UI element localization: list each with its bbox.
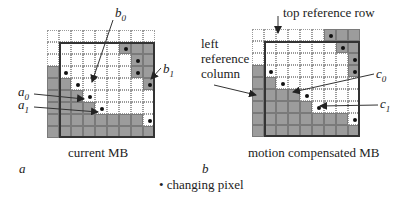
pixel — [288, 65, 300, 77]
pixel — [324, 53, 336, 65]
pixel — [288, 41, 300, 53]
shaded-pixel — [252, 101, 264, 113]
changing-pixel-dot-icon — [269, 70, 273, 74]
shaded-pixel — [336, 113, 348, 125]
pixel — [264, 29, 276, 41]
shaded-pixel — [300, 113, 312, 125]
shaded-pixel — [336, 29, 348, 41]
pixel — [312, 101, 324, 113]
label-left-ref-line3: column — [201, 66, 240, 82]
pixel — [324, 101, 336, 113]
dot-legend-icon: • — [159, 177, 164, 192]
pixel — [264, 41, 276, 53]
changing-pixel-dot-icon — [317, 106, 321, 110]
label-top-reference-row: top reference row — [283, 5, 375, 21]
pixel — [348, 89, 360, 101]
pixel — [336, 65, 348, 77]
shaded-pixel — [276, 125, 288, 137]
pixel — [336, 101, 348, 113]
shaded-pixel — [252, 77, 264, 89]
shaded-pixel — [264, 77, 276, 89]
shaded-pixel — [324, 125, 336, 137]
changing-pixel-dot-icon — [305, 94, 309, 98]
pixel — [264, 65, 276, 77]
shaded-pixel — [288, 89, 300, 101]
shaded-pixel — [264, 101, 276, 113]
shaded-pixel — [264, 125, 276, 137]
motion-compensated-grid — [252, 29, 360, 137]
pixel — [276, 53, 288, 65]
changing-pixel-dot-icon — [353, 70, 357, 74]
label-c0: c0 — [376, 66, 386, 84]
pixel — [300, 65, 312, 77]
pixel — [348, 113, 360, 125]
panel-letter-b: b — [202, 161, 209, 177]
changing-pixel-dot-icon — [329, 34, 333, 38]
shaded-pixel — [348, 65, 360, 77]
changing-pixel-dot-icon — [341, 46, 345, 50]
pixel — [300, 29, 312, 41]
shaded-pixel — [300, 125, 312, 137]
caption-motion-compensated-mb: motion compensated MB — [248, 145, 379, 161]
pixel — [336, 89, 348, 101]
label-c1: c1 — [380, 96, 390, 114]
shaded-pixel — [312, 125, 324, 137]
pixel — [348, 101, 360, 113]
shaded-pixel — [264, 113, 276, 125]
changing-pixel-dot-icon — [281, 82, 285, 86]
pixel — [252, 29, 264, 41]
pixel — [348, 77, 360, 89]
pixel — [336, 53, 348, 65]
shaded-pixel — [276, 89, 288, 101]
pixel — [312, 41, 324, 53]
legend: • changing pixel — [159, 177, 244, 193]
shaded-pixel — [348, 53, 360, 65]
shaded-pixel — [348, 29, 360, 41]
label-left-ref-line2: reference — [201, 51, 249, 67]
shaded-pixel — [312, 113, 324, 125]
shaded-pixel — [252, 125, 264, 137]
pixel — [252, 41, 264, 53]
pixel — [312, 53, 324, 65]
shaded-pixel — [276, 113, 288, 125]
shaded-pixel — [348, 125, 360, 137]
pixel — [324, 41, 336, 53]
pixel — [300, 53, 312, 65]
shaded-pixel — [252, 65, 264, 77]
shaded-pixel — [324, 29, 336, 41]
pixel — [300, 77, 312, 89]
pixel — [300, 89, 312, 101]
label-left-ref-line1: left — [201, 36, 218, 52]
pixel — [288, 53, 300, 65]
pixel — [276, 77, 288, 89]
changing-pixel-dot-icon — [353, 58, 357, 62]
pixel — [312, 89, 324, 101]
changing-pixel-dot-icon — [353, 118, 357, 122]
shaded-pixel — [336, 125, 348, 137]
shaded-pixel — [276, 101, 288, 113]
pixel — [252, 53, 264, 65]
pixel — [312, 29, 324, 41]
shaded-pixel — [288, 113, 300, 125]
shaded-pixel — [300, 101, 312, 113]
panel-b-motion-compensated-mb: top reference row left reference column … — [0, 0, 406, 204]
pixel — [324, 65, 336, 77]
pixel — [288, 29, 300, 41]
shaded-pixel — [288, 125, 300, 137]
pixel — [312, 65, 324, 77]
pixel — [300, 41, 312, 53]
pixel — [324, 89, 336, 101]
pixel — [312, 77, 324, 89]
pixel — [276, 41, 288, 53]
shaded-pixel — [348, 41, 360, 53]
shaded-pixel — [336, 41, 348, 53]
pixel — [264, 53, 276, 65]
shaded-pixel — [252, 89, 264, 101]
shaded-pixel — [324, 113, 336, 125]
shaded-pixel — [288, 101, 300, 113]
pixel — [276, 29, 288, 41]
pixel — [336, 77, 348, 89]
shaded-pixel — [264, 89, 276, 101]
pixel — [288, 77, 300, 89]
pixel — [324, 77, 336, 89]
